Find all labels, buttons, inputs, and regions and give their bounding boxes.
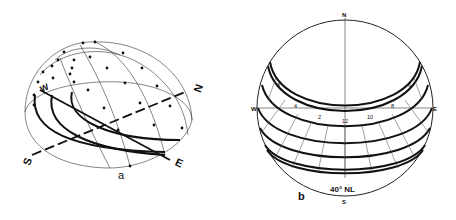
hour-label: 6 (408, 82, 411, 88)
compass-north-b: N (342, 12, 346, 18)
hour-label: 8 (391, 103, 394, 109)
compass-south-a: S (20, 156, 34, 167)
figure-a-hemisphere: S E N W a (20, 41, 205, 181)
figure-b-sunpath: N S W E 8 4 2 12 10 8 6 40° NL b (251, 12, 437, 205)
compass-west-a: W (38, 81, 50, 94)
latitude-caption: 40° NL (330, 185, 355, 194)
compass-south-b: S (342, 199, 346, 205)
figure-a-label: a (118, 169, 125, 181)
hour-label: 4 (294, 103, 297, 109)
hour-label: 8 (277, 82, 280, 88)
hour-label: 2 (318, 114, 321, 120)
compass-north-a: N (191, 82, 205, 94)
hour-label: 10 (367, 114, 373, 120)
hour-label: 12 (342, 118, 348, 124)
compass-east-a: E (173, 156, 185, 170)
figure-b-label: b (298, 190, 305, 202)
compass-west-b: W (251, 106, 257, 112)
compass-east-b: E (433, 106, 437, 112)
